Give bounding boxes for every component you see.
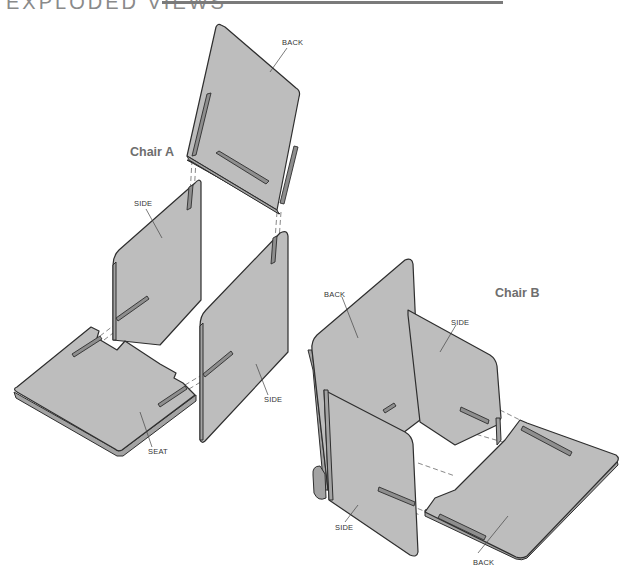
chair-a-side-right-panel [200, 232, 288, 443]
label-chair-b-side-front: SIDE [335, 523, 353, 532]
label-chair-b-side-rear: SIDE [451, 318, 469, 327]
chair-a-title: Chair A [130, 145, 174, 159]
label-chair-a-seat: SEAT [148, 447, 168, 456]
chair-b [308, 259, 618, 560]
label-chair-a-side-right: SIDE [264, 395, 282, 404]
chair-a-seat-panel [14, 327, 196, 456]
label-chair-b-back-flat: BACK [473, 558, 494, 567]
chair-a [14, 24, 300, 456]
chair-b-title: Chair B [495, 286, 539, 300]
label-chair-b-back-upright: BACK [324, 290, 345, 299]
label-chair-a-back: BACK [282, 38, 303, 47]
leader-back-a [270, 48, 287, 72]
chair-a-back-panel [187, 24, 300, 214]
chair-a-side-left-panel [113, 180, 201, 345]
label-chair-a-side-left: SIDE [134, 199, 152, 208]
